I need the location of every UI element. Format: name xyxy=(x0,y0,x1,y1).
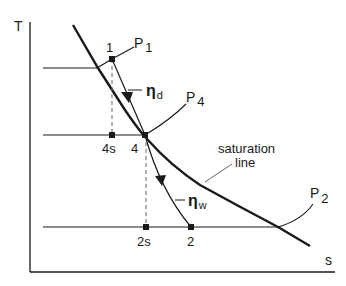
label-pressure-2: P2 xyxy=(310,185,329,206)
label-eta-w: ηw xyxy=(188,192,207,211)
arrow-eta-w-icon xyxy=(155,175,166,186)
label-point-4s: 4s xyxy=(102,141,116,156)
saturation-line-leader xyxy=(205,164,232,182)
labels: 1 4s 4 2s 2 P1 P4 P2 ηd ηw saturation li… xyxy=(102,35,329,249)
label-saturation-line-1: saturation xyxy=(218,141,275,156)
isentropic-dashes xyxy=(112,59,146,227)
ts-diagram: T s 1 4s 4 2s xyxy=(0,0,346,286)
isobar-p2-curve xyxy=(278,204,313,227)
label-point-1: 1 xyxy=(106,40,113,55)
isobar-p4-curve xyxy=(145,104,186,135)
label-pressure-4: P4 xyxy=(186,89,205,109)
point-4s-marker xyxy=(109,132,115,138)
label-eta-d: ηd xyxy=(146,82,163,101)
y-axis-label: T xyxy=(14,18,23,34)
point-2s-marker xyxy=(143,224,149,230)
point-1-marker xyxy=(109,56,115,62)
label-point-4: 4 xyxy=(131,141,138,156)
isobar-p1-leader xyxy=(112,47,134,59)
label-saturation-line-2: line xyxy=(235,155,255,170)
x-axis-label: s xyxy=(325,252,332,268)
process-4-2 xyxy=(145,135,191,227)
point-2-marker xyxy=(188,224,194,230)
axes: T s xyxy=(14,18,335,272)
label-pressure-1: P1 xyxy=(134,35,153,55)
label-point-2s: 2s xyxy=(137,234,151,249)
label-point-2: 2 xyxy=(187,234,194,249)
arrow-eta-d-icon xyxy=(121,92,133,103)
point-4-marker xyxy=(142,132,148,138)
